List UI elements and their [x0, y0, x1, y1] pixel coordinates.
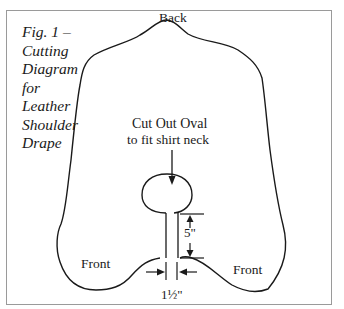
- label-cut-out-oval: Cut Out Oval: [132, 116, 207, 132]
- drape-outline: [57, 20, 286, 291]
- dim-down-arrow-icon: [187, 250, 194, 257]
- dim-up-arrow-icon: [187, 215, 194, 222]
- width-right-arrow-icon: [179, 269, 187, 276]
- label-slit-width: 1½": [161, 287, 183, 303]
- neck-oval: [142, 174, 192, 213]
- label-front-right: Front: [233, 262, 262, 278]
- label-fit-shirt-neck: to fit shirt neck: [127, 132, 209, 148]
- cut-arrow-head-icon: [169, 176, 176, 185]
- label-slit-length: 5": [184, 225, 196, 241]
- label-back: Back: [159, 10, 187, 26]
- label-front-left: Front: [81, 256, 110, 272]
- cutting-diagram: [0, 0, 344, 309]
- width-left-arrow-icon: [157, 269, 165, 276]
